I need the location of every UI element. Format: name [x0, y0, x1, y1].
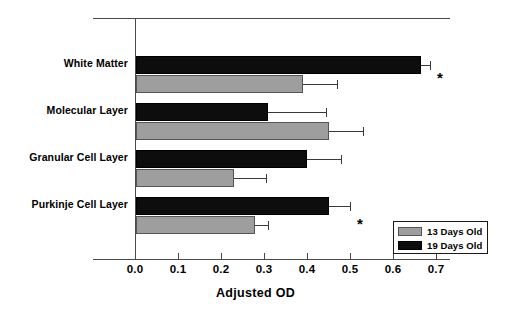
bar-0-series-0: [136, 75, 303, 93]
error-bar-line-3-series-0: [255, 225, 268, 226]
legend-label-13-days-old: 13 Days Old: [427, 226, 483, 237]
error-bar-cap-0-series-0: [337, 80, 338, 89]
y-axis-label-3: Purkinje Cell Layer: [32, 198, 128, 210]
legend-item-19-days-old: 19 Days Old: [398, 239, 483, 251]
x-tick-label-4: 0.4: [287, 263, 327, 275]
x-tick-1: [178, 253, 179, 260]
error-bar-line-1-series-1: [268, 112, 326, 113]
chart-legend: 13 Days Old 19 Days Old: [393, 221, 488, 254]
significance-asterisk-0: *: [437, 70, 443, 85]
error-bar-cap-2-series-1: [341, 155, 342, 164]
y-axis-label-1: Molecular Layer: [47, 104, 128, 116]
x-tick-4: [307, 253, 308, 260]
bar-1-series-1: [136, 103, 268, 121]
legend-label-19-days-old: 19 Days Old: [427, 240, 483, 251]
error-bar-line-0-series-0: [303, 84, 337, 85]
bar-3-series-1: [136, 197, 329, 215]
x-tick-label-0: 0.0: [115, 263, 155, 275]
error-bar-line-0-series-1: [421, 65, 430, 66]
x-tick-2: [221, 253, 222, 260]
y-axis-label-0: White Matter: [64, 57, 128, 69]
x-tick-label-2: 0.2: [201, 263, 241, 275]
significance-asterisk-1: *: [357, 216, 363, 231]
bar-2-series-1: [136, 150, 307, 168]
x-tick-label-1: 0.1: [158, 263, 198, 275]
bar-chart: 0.00.10.20.30.40.50.60.7 White MatterMol…: [0, 0, 511, 311]
x-axis-line: [93, 259, 450, 260]
error-bar-line-1-series-0: [329, 131, 363, 132]
error-bar-cap-3-series-0: [268, 221, 269, 230]
legend-item-13-days-old: 13 Days Old: [398, 225, 483, 237]
x-axis-title: Adjusted OD: [0, 286, 511, 300]
error-bar-cap-1-series-0: [363, 127, 364, 136]
x-tick-label-3: 0.3: [244, 263, 284, 275]
error-bar-cap-0-series-1: [430, 61, 431, 70]
legend-swatch-icon-13-days-old: [398, 227, 422, 236]
x-tick-7: [436, 253, 437, 260]
bar-2-series-0: [136, 169, 234, 187]
x-tick-label-7: 0.7: [416, 263, 456, 275]
x-tick-label-5: 0.5: [330, 263, 370, 275]
top-axis-rule: [93, 18, 450, 19]
x-tick-5: [350, 253, 351, 260]
x-tick-0: [135, 253, 136, 260]
legend-swatch-icon-19-days-old: [398, 241, 422, 250]
y-axis-label-2: Granular Cell Layer: [29, 151, 128, 163]
error-bar-cap-2-series-0: [266, 174, 267, 183]
bar-1-series-0: [136, 122, 329, 140]
x-tick-3: [264, 253, 265, 260]
bar-0-series-1: [136, 56, 421, 74]
x-tick-label-6: 0.6: [373, 263, 413, 275]
error-bar-cap-3-series-1: [350, 202, 351, 211]
x-tick-6: [393, 253, 394, 260]
error-bar-line-2-series-1: [307, 159, 341, 160]
error-bar-line-2-series-0: [234, 178, 266, 179]
error-bar-cap-1-series-1: [326, 108, 327, 117]
bar-3-series-0: [136, 216, 255, 234]
error-bar-line-3-series-1: [329, 206, 351, 207]
